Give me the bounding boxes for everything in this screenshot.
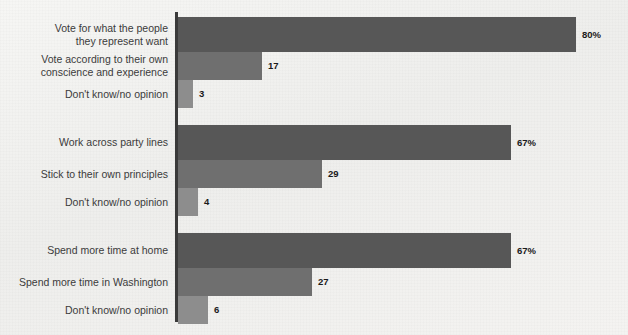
bar-medium [178, 160, 322, 188]
bar-category-label: Don't know/no opinion [8, 304, 168, 317]
bar-value-label: 17 [268, 60, 279, 71]
bar-category-label: Don't know/no opinion [8, 88, 168, 101]
bar-value-label: 3 [199, 88, 204, 99]
bar-category-label: Don't know/no opinion [8, 196, 168, 209]
bar-row: Don't know/no opinion6 [0, 296, 628, 324]
bar-row: Don't know/no opinion4 [0, 188, 628, 216]
bar-light [178, 296, 208, 324]
bar-category-label: Spend more time at home [8, 244, 168, 257]
bar-row: Spend more time in Washington27 [0, 268, 628, 296]
bar-dark [178, 233, 511, 268]
bar-value-label: 67% [517, 137, 536, 148]
bar-row: Stick to their own principles29 [0, 160, 628, 188]
horizontal-bar-chart: Vote for what the people they represent … [0, 0, 628, 335]
bar-dark [178, 125, 511, 160]
bar-row: Don't know/no opinion3 [0, 80, 628, 108]
bar-medium [178, 268, 312, 296]
bar-row: Vote for what the people they represent … [0, 17, 628, 52]
bar-value-label: 80% [582, 29, 601, 40]
bar-medium [178, 52, 262, 80]
bar-row: Vote according to their own conscience a… [0, 52, 628, 80]
bar-category-label: Spend more time in Washington [8, 276, 168, 289]
bar-light [178, 80, 193, 108]
bar-value-label: 67% [517, 245, 536, 256]
bar-category-label: Vote for what the people they represent … [8, 22, 168, 47]
bar-value-label: 6 [214, 304, 219, 315]
bar-value-label: 29 [328, 168, 339, 179]
bar-light [178, 188, 198, 216]
bar-dark [178, 17, 576, 52]
bar-row: Spend more time at home67% [0, 233, 628, 268]
bar-value-label: 27 [318, 276, 329, 287]
bar-category-label: Vote according to their own conscience a… [8, 53, 168, 78]
bar-category-label: Work across party lines [8, 136, 168, 149]
bar-value-label: 4 [204, 196, 209, 207]
bar-row: Work across party lines67% [0, 125, 628, 160]
bar-category-label: Stick to their own principles [8, 168, 168, 181]
